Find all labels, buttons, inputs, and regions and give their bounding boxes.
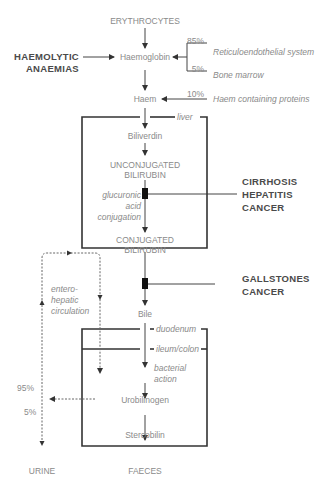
pct-marrow: 5%: [192, 64, 204, 74]
pct-reticulo: 85%: [187, 36, 204, 46]
node-unconjugated-line1: UNCONJUGATED: [110, 160, 180, 170]
disease-hepatitis: HEPATITIS: [242, 189, 293, 201]
region-duodenum: duodenum: [156, 324, 196, 334]
process-glucuronic-line3: conjugation: [98, 212, 141, 222]
process-bacterial-line2: action: [154, 374, 177, 384]
disease-haemolytic-line1: HAEMOLYTIC: [14, 51, 79, 63]
process-bacterial-line1: bacterial: [154, 363, 186, 373]
split-5: 5%: [24, 407, 36, 417]
node-stercobilin: Stercobilin: [125, 430, 165, 440]
disease-cancer-bile: CANCER: [242, 286, 284, 298]
node-biliverdin: Biliverdin: [128, 131, 163, 141]
process-entero-line2: hepatic: [51, 295, 78, 305]
node-unconjugated-line2: BILIRUBIN: [124, 170, 166, 180]
process-glucuronic-line2: acid: [125, 201, 141, 211]
region-liver: liver: [177, 112, 193, 122]
disease-haemolytic-line2: ANAEMIAS: [26, 63, 79, 75]
node-bile: Bile: [138, 309, 152, 319]
split-95: 95%: [17, 383, 34, 393]
process-glucuronic-line1: glucuronic: [102, 190, 141, 200]
disease-cancer-liver: CANCER: [242, 202, 284, 214]
node-faeces: FAECES: [128, 466, 162, 476]
node-conjugated-line2: BILIRUBIN: [124, 245, 166, 255]
disease-cirrhosis: CIRRHOSIS: [242, 176, 297, 188]
disease-gallstones: GALLSTONES: [242, 273, 310, 285]
source-marrow: Bone marrow: [213, 70, 264, 80]
pct-haem-proteins: 10%: [187, 89, 204, 99]
node-haem: Haem: [134, 94, 157, 104]
source-reticulo: Reticuloendothelial system: [213, 47, 314, 57]
source-haem-proteins: Haem containing proteins: [213, 94, 309, 104]
node-conjugated-line1: CONJUGATED: [116, 235, 174, 245]
node-haemoglobin: Haemoglobin: [120, 52, 170, 62]
region-ileum-colon: ileum/colon: [156, 344, 199, 354]
process-entero-line1: entero-: [51, 284, 78, 294]
node-urine: URINE: [29, 466, 55, 476]
process-entero-line3: circulation: [51, 306, 89, 316]
node-erythrocytes: ERYTHROCYTES: [110, 16, 180, 26]
node-urobilinogen: Urobilinogen: [121, 395, 169, 405]
